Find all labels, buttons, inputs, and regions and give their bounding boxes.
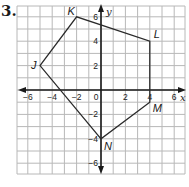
x-tick-label: 0 [94, 92, 99, 102]
x-tick-label: 6 [172, 92, 177, 102]
vertex-label-m: M [153, 102, 163, 114]
x-tick-label: −6 [23, 92, 33, 102]
y-axis-label: y [105, 6, 112, 17]
vertex-label-k: K [68, 5, 76, 17]
coordinate-graph: xy −6−4−20246642−2−4−6 JKLMN [0, 0, 189, 187]
y-tick-label: −2 [88, 109, 98, 119]
y-axis-arrow-down-icon [98, 166, 104, 174]
x-tick-label: 2 [123, 92, 128, 102]
y-tick-label: −6 [88, 158, 98, 168]
vertex-label-l: L [154, 28, 160, 40]
y-tick-label: 6 [93, 12, 98, 22]
vertex-label-n: N [104, 140, 112, 152]
vertex-label-j: J [30, 59, 37, 71]
x-tick-label: −2 [72, 92, 82, 102]
y-axis-arrow-up-icon [98, 4, 104, 12]
x-tick-label: −4 [47, 92, 57, 102]
y-tick-label: 2 [93, 61, 98, 71]
x-axis-label: x [180, 92, 186, 103]
y-tick-label: −4 [88, 134, 98, 144]
y-tick-label: 4 [93, 36, 98, 46]
